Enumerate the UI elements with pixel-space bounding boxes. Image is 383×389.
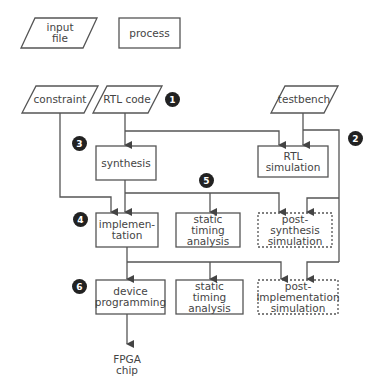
process-synthesis: synthesis — [96, 146, 156, 180]
input-rtl-code: RTL code — [98, 86, 156, 113]
input-testbench: testbench — [276, 86, 332, 113]
step-badge-2: 2 — [348, 131, 363, 146]
legend-input-file-label: input file — [30, 18, 90, 48]
process-post-implementation-simulation: post- implementation simulation — [258, 280, 338, 314]
process-static-timing-analysis-1: static timing analysis — [176, 213, 240, 247]
step-badge-1: 1 — [165, 92, 180, 107]
process-static-timing-analysis-2: static timing analysis — [176, 280, 243, 314]
process-device-programming: device programming — [96, 280, 165, 314]
step-badge-6: 6 — [72, 279, 87, 294]
process-implementation: implemen- tation — [96, 213, 158, 247]
step-badge-3: 3 — [72, 136, 87, 151]
flow-diagram-lines — [0, 0, 383, 389]
output-fpga-chip: FPGA chip — [102, 352, 152, 378]
legend-process-label: process — [119, 18, 180, 48]
process-post-synthesis-simulation: post-synthesis simulation — [258, 213, 332, 247]
input-constraint: constraint — [26, 86, 94, 113]
process-rtl-simulation: RTL simulation — [258, 146, 328, 177]
step-badge-5: 5 — [199, 173, 214, 188]
step-badge-4: 4 — [73, 212, 88, 227]
